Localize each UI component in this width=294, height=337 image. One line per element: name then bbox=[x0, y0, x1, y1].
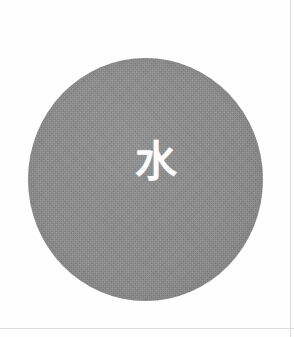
kanji-glyph-container: 水 bbox=[28, 58, 263, 301]
page-canvas: 水 bbox=[0, 0, 294, 337]
page-border-bottom bbox=[0, 328, 294, 329]
page-border-right bbox=[290, 0, 291, 337]
grey-circle-shape: 水 bbox=[28, 58, 263, 301]
water-kanji-character: 水 bbox=[135, 141, 177, 183]
